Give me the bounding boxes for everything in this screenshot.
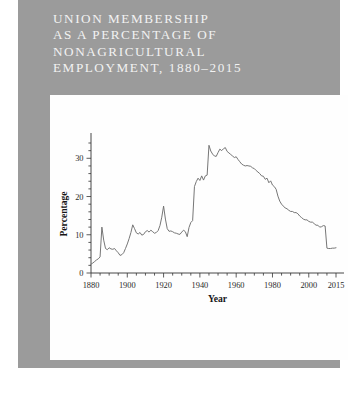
figure-title: UNION MEMBERSHIP AS A PERCENTAGE OF NONA… <box>53 11 333 77</box>
x-tick-label: 1940 <box>192 281 209 290</box>
y-tick-label: 0 <box>79 269 83 278</box>
x-axis-title: Year <box>208 293 228 304</box>
x-tick-label: 1900 <box>119 281 136 290</box>
title-line-2: AS A PERCENTAGE OF <box>53 27 333 43</box>
x-tick-label: 1980 <box>264 281 281 290</box>
x-tick-label: 1960 <box>228 281 245 290</box>
x-tick-label: 2000 <box>300 281 317 290</box>
data-series-line <box>91 145 336 264</box>
y-axis-title: Percentage <box>58 191 69 237</box>
x-tick-label: 1880 <box>83 281 100 290</box>
title-line-1: UNION MEMBERSHIP <box>53 11 333 27</box>
figure-page: UNION MEMBERSHIP AS A PERCENTAGE OF NONA… <box>0 0 358 400</box>
x-tick-label: 1920 <box>155 281 172 290</box>
chart-panel: 010203018801900192019401960198020002015Y… <box>50 95 348 360</box>
figure-gray-panel: UNION MEMBERSHIP AS A PERCENTAGE OF NONA… <box>18 0 340 368</box>
y-tick-label: 20 <box>75 193 83 202</box>
x-tick-label: 2015 <box>328 281 345 290</box>
title-line-4: EMPLOYMENT, 1880–2015 <box>53 60 333 76</box>
y-tick-label: 30 <box>75 154 83 163</box>
line-chart: 010203018801900192019401960198020002015Y… <box>50 95 348 360</box>
y-tick-label: 10 <box>75 231 83 240</box>
title-line-3: NONAGRICULTURAL <box>53 44 333 60</box>
